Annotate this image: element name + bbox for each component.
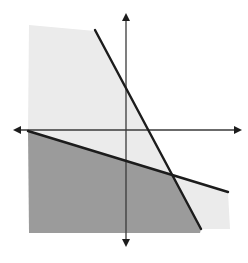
inequality-graph (0, 0, 248, 263)
